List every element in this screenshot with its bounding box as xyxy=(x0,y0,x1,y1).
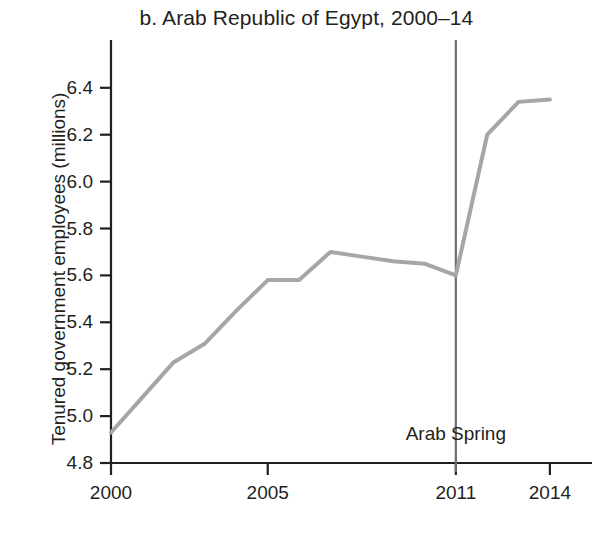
x-axis-tick-label: 2011 xyxy=(435,482,476,504)
x-axis-ticks xyxy=(111,463,550,475)
x-axis-tick-label: 2005 xyxy=(247,482,289,504)
x-axis-tick-label: 2000 xyxy=(90,482,132,504)
arab-spring-annotation-label: Arab Spring xyxy=(406,423,506,445)
y-axis-ticks xyxy=(100,88,111,463)
y-axis-tick-label: 5.8 xyxy=(30,218,93,240)
y-axis-tick-label: 5.4 xyxy=(30,311,93,333)
y-axis-tick-label: 5.0 xyxy=(30,405,93,427)
y-axis-tick-label: 6.2 xyxy=(30,124,93,146)
data-series xyxy=(111,100,550,433)
x-axis-tick-label: 2014 xyxy=(529,482,571,504)
chart-figure: b. Arab Republic of Egypt, 2000–14 Tenur… xyxy=(0,0,613,534)
y-axis-tick-label: 6.4 xyxy=(30,77,93,99)
y-axis-tick-label: 4.8 xyxy=(30,452,93,474)
y-axis-tick-label: 6.0 xyxy=(30,171,93,193)
series-line-0 xyxy=(111,100,550,433)
y-axis-tick-label: 5.2 xyxy=(30,358,93,380)
y-axis-tick-label: 5.6 xyxy=(30,264,93,286)
